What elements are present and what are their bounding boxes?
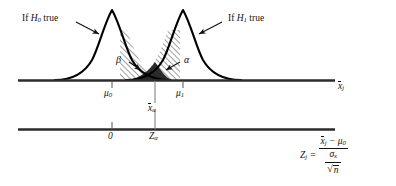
tick-label-mu1: μ1: [176, 89, 184, 99]
tick-label-xbar-alpha: xα: [148, 104, 156, 114]
sqrt-group: √n: [327, 164, 339, 176]
top-axis-label: xj: [338, 82, 344, 92]
hypothesis-test-figure: If H0 true If H1 true β α μ0 μ1 xα xj 0 …: [0, 0, 396, 186]
radicand: n: [333, 165, 340, 176]
axis-label-var: x: [338, 82, 342, 92]
h0-if-text: If: [22, 13, 31, 23]
h0-true-text: true: [41, 13, 58, 23]
z-statistic-formula: Zj = xj − μ0 σx √n: [300, 137, 348, 175]
leader-h1-arrow: [199, 22, 222, 34]
formula-lhs: Zj: [300, 151, 307, 161]
xbar-alpha-var: x: [148, 104, 152, 114]
h0-var: H: [31, 13, 38, 23]
h1-true-text: true: [247, 13, 264, 23]
alpha-label: α: [184, 55, 189, 65]
mu0-sub: 0: [109, 91, 112, 98]
tick-label-z-alpha: Zα: [149, 132, 158, 142]
z-alpha-sub: α: [154, 134, 158, 141]
numerator-minus: −: [329, 136, 335, 146]
inner-denominator: √n: [325, 163, 341, 176]
formula-denominator: σx √n: [323, 149, 343, 175]
beta-label: β: [116, 55, 121, 65]
tick-label-zero: 0: [108, 132, 113, 142]
formula-numerator: xj − μ0: [319, 137, 348, 148]
formula-inner-fraction: σx √n: [325, 150, 341, 175]
numerator-mu-sub: 0: [343, 139, 346, 146]
sigma-sub: x: [334, 153, 337, 160]
leader-h0-arrow: [76, 22, 99, 34]
numerator-xbar: x: [321, 137, 325, 147]
annotation-h0-label: If H0 true: [22, 14, 58, 24]
formula-equals: =: [310, 151, 315, 161]
mu1-sub: 1: [181, 91, 184, 98]
tick-label-mu0: μ0: [104, 89, 112, 99]
zero-var: 0: [108, 131, 113, 141]
inner-numerator: σx: [327, 150, 339, 161]
annotation-h1-label: If H1 true: [228, 14, 264, 24]
numerator-sub: j: [325, 139, 327, 146]
xbar-alpha-sub: α: [152, 106, 156, 113]
h1-if-text: If: [228, 13, 237, 23]
formula-lhs-sub: j: [305, 153, 307, 160]
formula-fraction: xj − μ0 σx √n: [319, 137, 348, 175]
axis-label-sub: j: [342, 84, 344, 91]
h1-var: H: [237, 13, 244, 23]
